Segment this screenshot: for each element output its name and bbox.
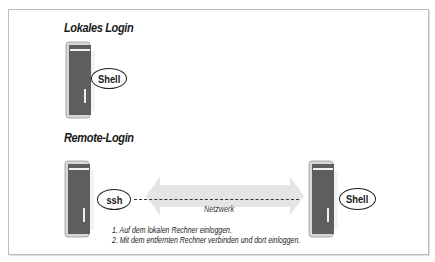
ssh-bubble: ssh bbox=[97, 189, 131, 210]
shell-label: Shell bbox=[98, 73, 120, 85]
shell-label-remote: Shell bbox=[346, 193, 368, 205]
tower-computer-icon-local bbox=[64, 160, 94, 238]
shell-bubble-local: Shell bbox=[91, 68, 127, 89]
network-connection-line bbox=[134, 199, 299, 200]
tower-computer-icon-remote bbox=[308, 160, 338, 238]
steps-list: 1. Auf dem lokalen Rechner einloggen. 2.… bbox=[112, 225, 300, 245]
shell-bubble-remote: Shell bbox=[339, 188, 376, 210]
remote-login-title: Remote-Login bbox=[64, 131, 134, 145]
local-login-title: Lokales Login bbox=[64, 21, 133, 35]
ssh-label: ssh bbox=[106, 194, 122, 206]
step-1: 1. Auf dem lokalen Rechner einloggen. bbox=[112, 225, 300, 235]
network-label: Netzwerk bbox=[204, 204, 234, 214]
step-2: 2. Mit dem entfernten Rechner verbinden … bbox=[112, 235, 300, 245]
